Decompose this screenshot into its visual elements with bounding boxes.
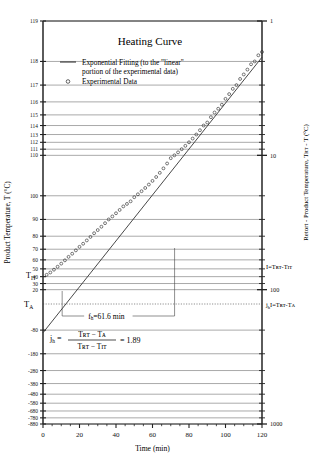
data-point bbox=[191, 137, 194, 140]
jh-formula-sub: h bbox=[52, 338, 55, 344]
y-tick-label-left: -680 bbox=[28, 408, 38, 414]
data-point bbox=[89, 235, 92, 238]
y-tick-label-left: -880 bbox=[28, 421, 38, 427]
y-tick-label-left: 70 bbox=[33, 246, 39, 252]
data-point bbox=[45, 273, 48, 276]
data-point bbox=[144, 187, 147, 190]
data-point bbox=[155, 176, 158, 179]
data-point bbox=[228, 93, 231, 96]
y-tick-label-left: 113 bbox=[30, 132, 38, 138]
y-tick-label-right: 1 bbox=[270, 17, 273, 24]
legend-label-fit-line1: Exponential Fitting (to the "linear" bbox=[82, 58, 184, 67]
y-tick-label-left: -780 bbox=[28, 415, 38, 421]
data-point bbox=[100, 225, 103, 228]
y-tick-label-left: 112 bbox=[30, 139, 38, 145]
y-tick-label-right: 1000 bbox=[270, 420, 282, 427]
legend-label-experimental: Experimental Data bbox=[82, 77, 138, 86]
y-tick-label-left: -480 bbox=[28, 391, 38, 397]
data-point bbox=[136, 193, 139, 196]
y-tick-label-left: 90 bbox=[33, 216, 39, 222]
y-tick-label-left: 111 bbox=[30, 146, 38, 152]
y-tick-label-left: 50 bbox=[33, 266, 39, 272]
data-point bbox=[231, 87, 234, 90]
data-point bbox=[111, 215, 114, 218]
data-point bbox=[166, 162, 169, 165]
chart-svg: 1191181171161151141131121111101009080706… bbox=[0, 0, 320, 464]
data-point bbox=[147, 183, 150, 186]
x-axis-title: Time (min) bbox=[135, 444, 170, 453]
jh-formula-symbol: jh= bbox=[49, 334, 62, 344]
x-tick-label: 100 bbox=[220, 431, 231, 439]
y-tick-label-left: -280 bbox=[28, 368, 38, 374]
data-point bbox=[224, 97, 227, 100]
data-point bbox=[177, 151, 180, 154]
x-tick-label: 0 bbox=[41, 431, 45, 439]
y-axis-title-left: Product Temperature, T (°C) bbox=[4, 181, 12, 264]
right-label-jh-I: jhI=Tʀᴛ-Tᴀ bbox=[265, 301, 296, 310]
y-tick-label-left: 80 bbox=[33, 233, 39, 239]
jh-numerator: Tʀᴛ − Tᴀ bbox=[78, 330, 106, 339]
data-point bbox=[242, 73, 245, 76]
y-tick-label-left: 114 bbox=[30, 123, 38, 129]
data-point bbox=[217, 107, 220, 110]
right-label-I: I=Tʀᴛ-Tɪᴛ bbox=[266, 263, 292, 270]
y-tick-label-left: -180 bbox=[28, 351, 38, 357]
y-tick-label-left: 117 bbox=[30, 82, 38, 88]
data-point bbox=[184, 144, 187, 147]
y-tick-label-left: -80 bbox=[31, 327, 38, 333]
data-point bbox=[93, 232, 96, 235]
x-tick-label: 80 bbox=[186, 431, 194, 439]
data-point bbox=[71, 252, 74, 255]
data-point bbox=[213, 111, 216, 114]
data-point bbox=[85, 239, 88, 242]
y-tick-label-left: 115 bbox=[30, 112, 38, 118]
data-point bbox=[56, 265, 59, 268]
data-point bbox=[122, 205, 125, 208]
data-point bbox=[126, 202, 129, 205]
y-tick-label-right: 10 bbox=[270, 152, 276, 159]
data-point bbox=[250, 63, 253, 66]
data-point bbox=[169, 157, 172, 160]
data-point bbox=[220, 103, 223, 106]
data-point bbox=[63, 259, 66, 262]
data-point bbox=[60, 262, 63, 265]
y-tick-label-left: -580 bbox=[28, 400, 38, 406]
data-point bbox=[199, 129, 202, 132]
data-point bbox=[129, 200, 132, 203]
right-label-jh-I-rest: I=Tʀᴛ-Tᴀ bbox=[270, 301, 296, 308]
legend-open-circle-icon bbox=[66, 80, 70, 84]
y-tick-label-left: -380 bbox=[28, 381, 38, 387]
fh-label: fh=61.6 min bbox=[88, 312, 125, 322]
label-t-a: TA bbox=[24, 299, 33, 310]
y-tick-label-left: 100 bbox=[30, 193, 38, 199]
data-point bbox=[118, 209, 121, 212]
y-tick-label-right: 100 bbox=[270, 286, 279, 293]
fitted-line bbox=[43, 57, 262, 333]
y-tick-label-left: 60 bbox=[33, 257, 39, 263]
fh-value: =61.6 min bbox=[93, 312, 124, 321]
x-tick-label: 60 bbox=[149, 431, 157, 439]
data-point bbox=[133, 196, 136, 199]
y-tick-label-left: 116 bbox=[30, 99, 38, 105]
data-point bbox=[209, 116, 212, 119]
label-t-a-sub: A bbox=[29, 304, 33, 310]
jh-denominator: Tʀᴛ − Tɪᴛ bbox=[78, 342, 108, 351]
data-point bbox=[257, 54, 260, 57]
legend-label-fit-line2: portion of the experimental data) bbox=[82, 67, 179, 76]
data-point bbox=[162, 167, 165, 170]
jh-result: = 1.89 bbox=[120, 336, 141, 345]
data-point bbox=[246, 68, 249, 71]
data-point bbox=[49, 271, 52, 274]
x-tick-label: 120 bbox=[257, 431, 268, 439]
x-tick-label: 40 bbox=[113, 431, 121, 439]
data-point bbox=[82, 242, 85, 245]
x-tick-label: 20 bbox=[76, 431, 84, 439]
label-t-it-sub: IT bbox=[31, 275, 37, 281]
data-point bbox=[158, 171, 161, 174]
data-point bbox=[206, 121, 209, 124]
data-point bbox=[151, 179, 154, 182]
data-point bbox=[96, 229, 99, 232]
data-point bbox=[115, 212, 118, 215]
data-point bbox=[239, 78, 242, 81]
experimental-data-series bbox=[45, 51, 263, 277]
